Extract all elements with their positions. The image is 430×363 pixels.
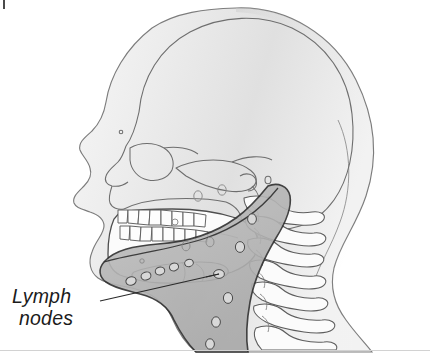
lymph-node <box>223 293 232 304</box>
lymph-node <box>235 242 244 253</box>
lymph-node <box>248 214 257 224</box>
lymph-nodes-label-line2: nodes <box>19 307 73 329</box>
lymph-node <box>212 317 221 327</box>
lymph-nodes-label-line1: Lymph <box>12 285 71 307</box>
bottom-rule <box>0 350 430 351</box>
lymph-node <box>206 339 215 349</box>
illustration-canvas: Lymph nodes <box>0 0 430 363</box>
